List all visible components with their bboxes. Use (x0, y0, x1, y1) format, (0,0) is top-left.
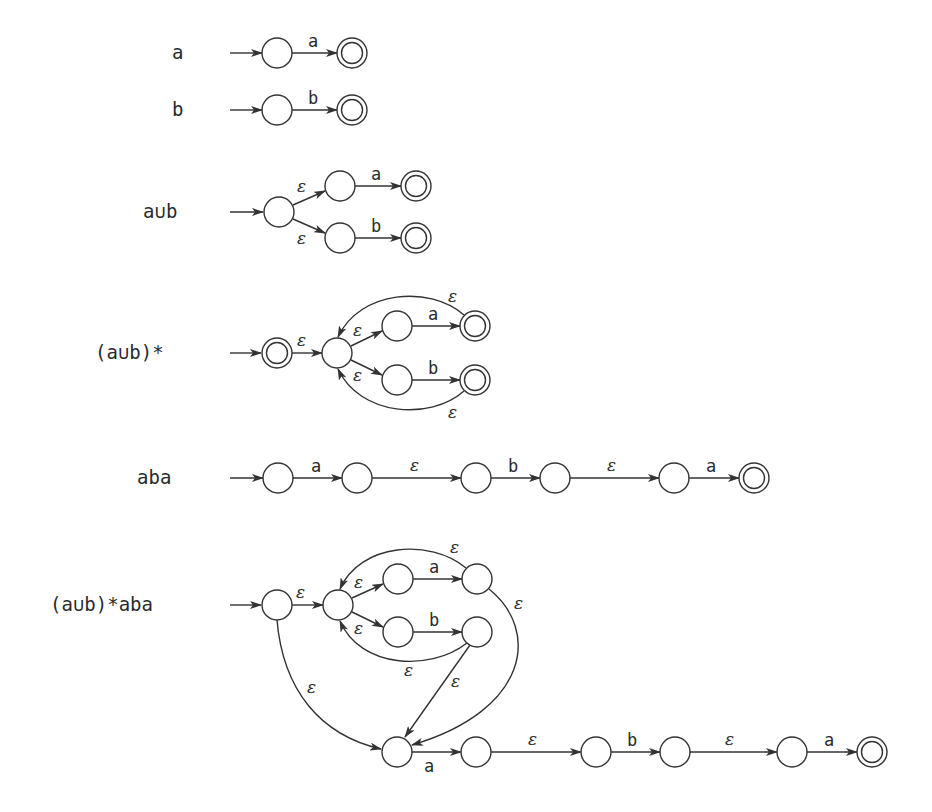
nfa-row-union: a∪b ε ε a b (143, 164, 431, 253)
state (383, 564, 413, 594)
edge-label: a (428, 304, 438, 324)
edge-label: ε (725, 729, 734, 749)
edge-label: ε (450, 537, 459, 557)
edge-label: a (424, 756, 434, 776)
state (462, 617, 492, 647)
edge-label: ε (354, 572, 363, 592)
regex-label: aba (137, 466, 171, 488)
edge-label: b (627, 730, 637, 750)
state (540, 463, 570, 493)
edge-label: a (371, 164, 381, 184)
edge-label: b (508, 456, 518, 476)
state (262, 38, 292, 68)
state (462, 564, 492, 594)
skip-edge (277, 620, 381, 749)
edge-label: ε (514, 593, 523, 613)
state (659, 463, 689, 493)
regex-label: (a∪b)*aba (50, 593, 153, 615)
nfa-row-aba: aba a ε b ε a (137, 455, 769, 493)
edge-label: b (428, 358, 438, 378)
edge-label: a (429, 557, 439, 577)
edge-label: a (706, 456, 716, 476)
nfa-row-b: b b (172, 88, 367, 125)
edge-label: b (308, 88, 318, 108)
state (382, 311, 412, 341)
state (323, 590, 353, 620)
nfa-row-star-aba: (a∪b)*aba ε ε ε a b ε ε ε ε ε a ε (50, 537, 887, 776)
edge-label: ε (307, 677, 316, 697)
state (322, 338, 352, 368)
exit-edge (412, 589, 518, 745)
edge-label: ε (607, 455, 616, 475)
nfa-construction-diagram: a a b b a∪b ε ε a b (a∪b (0, 0, 932, 812)
edge-label: a (308, 31, 318, 51)
edge-label: b (371, 216, 381, 236)
edge-label: ε (353, 365, 362, 385)
edge-label: ε (296, 582, 305, 602)
state (382, 365, 412, 395)
edge-label: ε (353, 320, 362, 340)
edge-label: ε (448, 402, 457, 422)
state (325, 223, 355, 253)
state (262, 95, 292, 125)
state (325, 171, 355, 201)
state (342, 463, 372, 493)
regex-label: b (172, 98, 183, 120)
edge-label: ε (451, 671, 460, 691)
state (581, 737, 611, 767)
regex-label: (a∪b)* (95, 341, 164, 363)
nfa-row-a: a a (172, 31, 367, 68)
edge-label: ε (404, 660, 413, 680)
state (461, 737, 491, 767)
edge-label: ε (528, 729, 537, 749)
edge-label: ε (297, 330, 306, 350)
edge-label: ε (297, 176, 306, 196)
edge-label: ε (448, 286, 457, 306)
edge-label: a (311, 456, 321, 476)
edge-label: ε (410, 455, 419, 475)
edge-label: b (429, 610, 439, 630)
state (461, 463, 491, 493)
state (383, 617, 413, 647)
edge-label: ε (297, 228, 306, 248)
state (262, 590, 292, 620)
edge-label: ε (354, 618, 363, 638)
state (777, 737, 807, 767)
regex-label: a∪b (143, 200, 177, 222)
nfa-row-star: (a∪b)* ε ε ε a b ε ε (95, 286, 490, 422)
exit-edge (405, 645, 470, 737)
state (264, 197, 294, 227)
edge-label: a (824, 730, 834, 750)
state (263, 463, 293, 493)
state (660, 737, 690, 767)
state (382, 737, 412, 767)
regex-label: a (172, 41, 183, 63)
